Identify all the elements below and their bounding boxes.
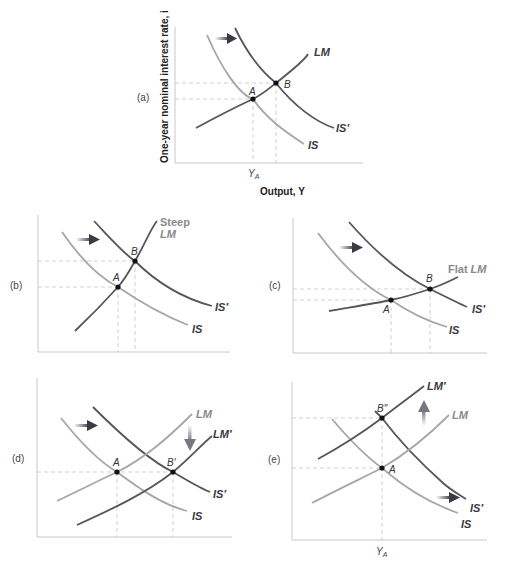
point-b-label: B	[131, 246, 138, 257]
point-a	[388, 297, 393, 302]
axes-d	[37, 378, 232, 537]
ya-label-e: YA	[376, 546, 388, 558]
lm-label-e: LM	[452, 409, 469, 421]
is-label-e: IS	[461, 518, 472, 530]
is-prime-label-a: IS′	[336, 122, 350, 134]
point-b-double-prime-label: B″	[377, 403, 388, 414]
point-a-label: A	[248, 86, 256, 97]
panel-label-b: (b)	[10, 280, 22, 291]
shift-up-arrow-icon	[418, 400, 430, 426]
ya-label-a: YA	[248, 168, 260, 180]
is-label-c: IS	[449, 324, 460, 336]
shift-right-arrow-icon	[76, 234, 100, 245]
point-a	[379, 465, 384, 470]
point-a	[114, 469, 119, 474]
x-axis-title: Output, Y	[260, 186, 305, 197]
point-b-label: B	[426, 273, 433, 284]
shift-right-arrow-icon	[339, 242, 363, 253]
point-a-label: A	[382, 304, 390, 315]
panel-d: (d) A B′ LM LM′ IS′ IS	[12, 378, 233, 537]
panel-c: (c) A B FlatLM IS′ IS	[269, 218, 487, 353]
panel-label-c: (c)	[269, 280, 281, 291]
panel-a: (a) One-year nominal interest rate, i A …	[137, 10, 363, 197]
shift-down-arrow-icon	[184, 425, 196, 451]
panel-label-d: (d)	[12, 453, 24, 464]
lm-label-b: LM	[160, 228, 177, 240]
is-label-b: IS	[192, 323, 203, 335]
point-b-double-prime	[379, 415, 384, 420]
is-prime-curve-a	[235, 28, 334, 128]
is-prime-label-b: IS′	[215, 301, 229, 313]
point-b	[273, 80, 278, 85]
axes-a	[175, 27, 363, 163]
is-label-d: IS	[192, 510, 203, 522]
is-prime-label-c: IS′	[472, 303, 486, 315]
lm-prime-label-d: LM′	[213, 428, 233, 440]
point-b	[132, 258, 137, 263]
is-prime-label-d: IS′	[213, 488, 227, 500]
point-a-label: A	[112, 272, 120, 283]
point-a-label: A	[112, 457, 120, 468]
flat-lm-label-c: FlatLM	[448, 263, 487, 275]
axes-e	[292, 382, 487, 540]
lm-prime-label-e: LM′	[427, 380, 447, 392]
point-a	[115, 284, 120, 289]
steep-label-b: Steep	[160, 216, 190, 228]
shift-right-arrow-icon	[74, 420, 98, 431]
point-b-prime	[170, 469, 175, 474]
lm-curve-e	[312, 415, 449, 503]
point-a-label: A	[388, 464, 396, 475]
point-b	[427, 286, 432, 291]
lm-label-d: LM	[196, 408, 213, 420]
panel-label-a: (a)	[137, 92, 149, 103]
is-prime-label-e: IS′	[470, 502, 484, 514]
is-label-a: IS	[308, 139, 319, 151]
panel-label-e: (e)	[268, 454, 280, 465]
lm-label-a: LM	[314, 46, 331, 58]
point-b-label: B	[284, 79, 291, 90]
is-prime-curve-e	[375, 411, 466, 499]
point-b-prime-label: B′	[167, 457, 177, 468]
shift-right-arrow-icon	[215, 33, 237, 44]
panel-e: (e) A B″ LM′ LM IS′ IS YA	[268, 380, 487, 558]
islm-diagram: (a) One-year nominal interest rate, i A …	[0, 0, 509, 561]
y-axis-title: One-year nominal interest rate, i	[159, 10, 170, 163]
point-a	[250, 96, 255, 101]
panel-b: (b) A B Steep LM IS′ IS	[10, 215, 230, 352]
